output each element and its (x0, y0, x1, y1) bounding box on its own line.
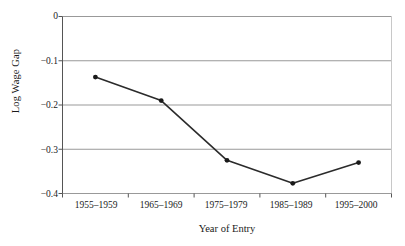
data-point-2 (225, 158, 230, 163)
data-point-0 (93, 75, 98, 80)
data-point-4 (356, 160, 361, 165)
data-line-series-0 (95, 77, 358, 183)
chart-figure: Log Wage Gap 0 −0.1 −0.2 −0.3 −0.4 1955–… (0, 0, 405, 246)
data-point-1 (159, 98, 164, 103)
plot-area (0, 0, 405, 246)
x-axis-title: Year of Entry (62, 223, 392, 234)
data-point-3 (290, 181, 295, 186)
axis-ticks (59, 17, 392, 198)
